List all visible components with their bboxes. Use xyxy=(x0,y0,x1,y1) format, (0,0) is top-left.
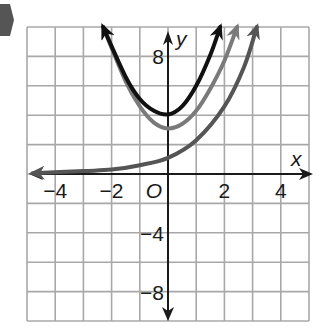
graph: −4−2248−4−8Oxy xyxy=(0,0,328,332)
x-tick-label: −4 xyxy=(43,179,67,202)
problem-marker-icon xyxy=(0,4,14,36)
curve-dark-gray-exponential xyxy=(33,27,257,173)
x-tick-label: −2 xyxy=(100,179,124,202)
y-tick-label: −4 xyxy=(140,222,164,245)
x-axis-label: x xyxy=(290,147,303,170)
curves xyxy=(33,27,257,173)
y-tick-label: −8 xyxy=(140,281,164,304)
axes xyxy=(31,31,311,319)
x-tick-label: 4 xyxy=(275,179,287,202)
x-tick-label: 2 xyxy=(219,179,231,202)
y-tick-label: 8 xyxy=(152,45,164,68)
y-axis-label: y xyxy=(174,27,188,50)
origin-label: O xyxy=(146,179,162,202)
